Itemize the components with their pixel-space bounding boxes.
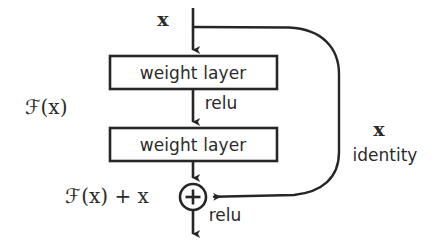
identity-label: identity: [353, 147, 418, 164]
residual-block-diagram: x weight layer relu weight layer ℱ(x) ℱ(…: [0, 0, 445, 247]
weight-layer-label-1: weight layer: [140, 65, 247, 82]
relu-label-output: relu: [209, 207, 242, 224]
skip-var-label: x: [373, 120, 384, 139]
output-sum-label: ℱ(x) + x: [65, 186, 149, 206]
weight-layer-label-2: weight layer: [140, 137, 247, 154]
function-branch-label: ℱ(x): [25, 97, 68, 117]
input-label: x: [157, 10, 168, 29]
relu-label-mid: relu: [205, 95, 238, 112]
